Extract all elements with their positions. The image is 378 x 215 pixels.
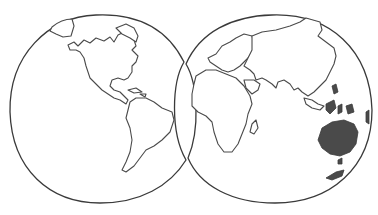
pacific-island [366,110,369,124]
eastern-hemisphere [186,15,372,203]
western-hemisphere [10,15,186,203]
world-map-illustration [0,0,378,215]
sulawesi [338,104,342,114]
